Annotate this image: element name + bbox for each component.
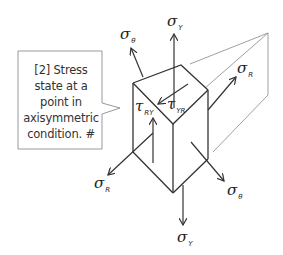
sigma-r-left-arrow [108,133,153,175]
callout-line-5: condition. # [18,126,104,142]
stress-arrows [108,34,236,225]
callout-line-1: [2] Stress [18,62,104,78]
label-sigma-theta-top: σθ [120,27,136,49]
label-sigma-r-right: σR [237,61,253,83]
stress-cube [133,65,208,193]
wedge-outline [190,33,268,152]
callout-line-4: axisymmetric [18,110,104,126]
label-sigma-r-left: σR [94,176,110,198]
label-sigma-theta-bottom: σθ [227,183,243,205]
callout-text: [2] Stress state at a point in axisymmet… [18,62,104,142]
label-sigma-y-top: σY [167,14,183,36]
label-sigma-y-bottom: σY [177,230,193,252]
sigma-theta-top-arrow [131,48,143,77]
callout-line-2: state at a [18,78,104,94]
callout-line-3: point in [18,94,104,110]
label-tau-ry: τRY [135,99,153,121]
label-tau-yr: τYR [167,97,185,119]
